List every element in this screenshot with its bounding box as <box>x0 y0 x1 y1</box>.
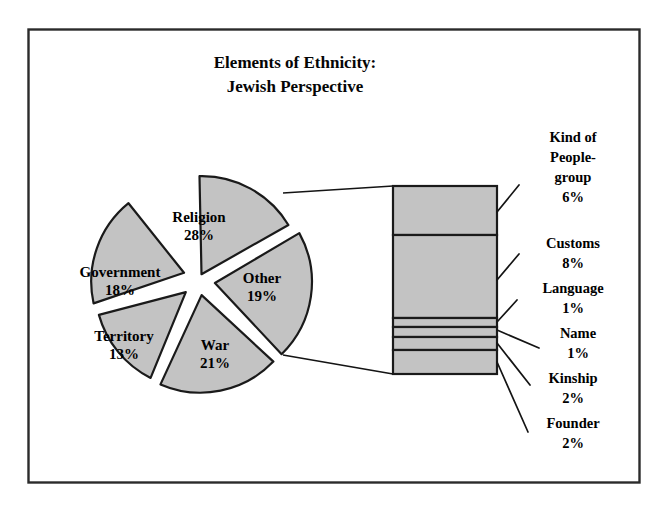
bar-label-name-name: Name <box>560 325 597 341</box>
bar-segment-founder[interactable] <box>393 350 497 374</box>
pie-label-religion-name: Religion <box>172 209 226 225</box>
bar-label-name-pct: 1% <box>567 345 589 361</box>
bar-segment-kind-of-people-group[interactable] <box>393 186 497 235</box>
bar-label-founder-name: Founder <box>546 415 600 431</box>
pie-label-government-name: Government <box>80 264 161 280</box>
bar-label-customs-pct: 8% <box>562 255 584 271</box>
bar-label-kind-line1: Kind of <box>549 129 596 145</box>
pie-label-war-pct: 21% <box>200 355 230 371</box>
pie-label-territory-name: Territory <box>94 328 154 344</box>
pie-label-government-pct: 18% <box>105 282 135 298</box>
chart-figure: Elements of Ethnicity: Jewish Perspectiv… <box>0 0 665 511</box>
bar-segment-language[interactable] <box>393 318 497 327</box>
pie-label-religion-pct: 28% <box>184 227 214 243</box>
bar-label-language-name: Language <box>542 280 604 296</box>
bar-segment-name[interactable] <box>393 327 497 337</box>
bar-label-kinship-pct: 2% <box>562 390 584 406</box>
pie-label-other-pct: 19% <box>247 288 277 304</box>
bar-label-founder-pct: 2% <box>562 435 584 451</box>
bar-label-customs-name: Customs <box>546 235 600 251</box>
breakout-bar <box>393 186 497 374</box>
pie-label-territory-pct: 13% <box>109 346 139 362</box>
chart-title-line2: Jewish Perspective <box>227 77 364 96</box>
bar-label-kind-line2: People- <box>550 149 596 165</box>
bar-label-kind-line3: group <box>555 169 592 185</box>
bar-label-kinship-name: Kinship <box>548 370 597 386</box>
pie-label-other-name: Other <box>243 270 282 286</box>
bar-label-language-pct: 1% <box>562 300 584 316</box>
bar-segment-kinship[interactable] <box>393 337 497 350</box>
chart-title-line1: Elements of Ethnicity: <box>214 53 376 72</box>
pie-label-war-name: War <box>201 337 230 353</box>
bar-segment-customs[interactable] <box>393 235 497 318</box>
bar-label-kind-pct: 6% <box>562 189 584 205</box>
